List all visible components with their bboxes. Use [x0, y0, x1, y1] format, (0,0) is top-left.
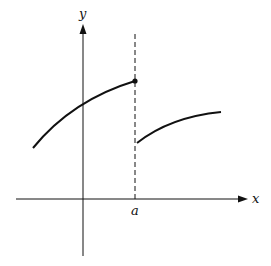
x-axis-arrow-icon: [238, 196, 248, 203]
left-curve: [33, 81, 135, 148]
y-axis-label: y: [78, 6, 87, 21]
discontinuity-diagram: y x a: [0, 0, 271, 266]
y-axis-arrow-icon: [80, 24, 87, 34]
x-axis-label: x: [252, 191, 260, 206]
discontinuity-point-label: a: [131, 203, 139, 218]
filled-endpoint-dot: [132, 78, 137, 83]
diagram-canvas: y x a: [0, 0, 271, 266]
right-curve: [137, 112, 221, 143]
